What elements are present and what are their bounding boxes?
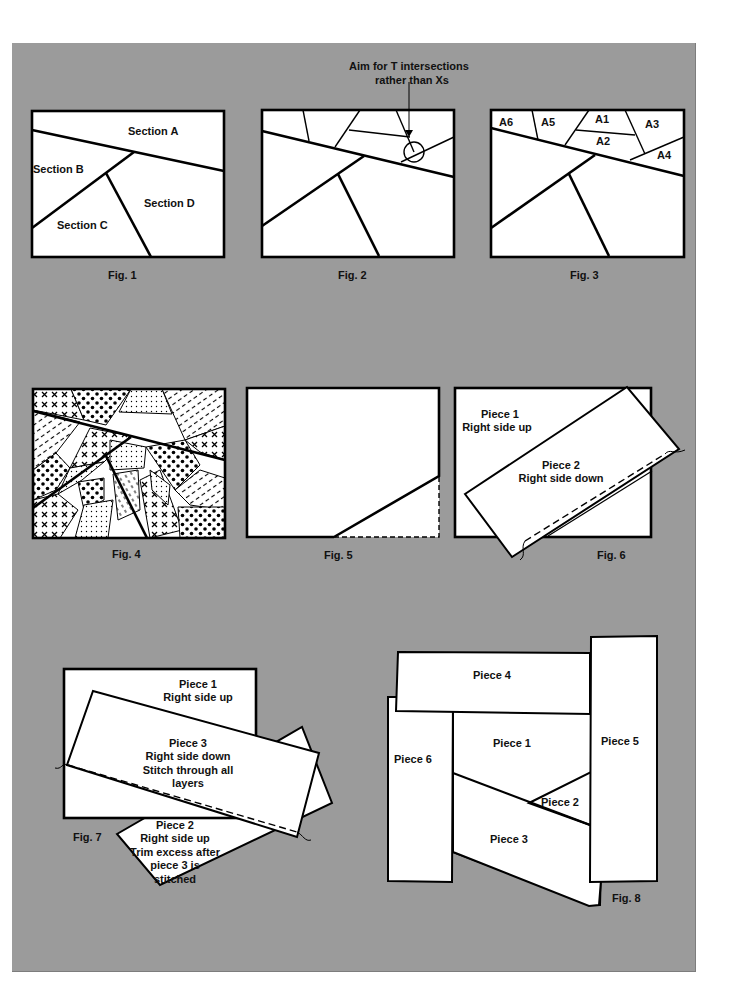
- fig7-thread-end: [297, 832, 311, 840]
- fig2-callout-line2: rather than Xs: [375, 74, 449, 86]
- figure-6: Piece 1 Right side up Piece 2 Right side…: [455, 387, 685, 561]
- fig8-label-piece2: Piece 2: [541, 796, 579, 808]
- fig1-label-section-c: Section C: [57, 219, 108, 231]
- figures-canvas: Section A Section B Section C Section D …: [0, 0, 731, 988]
- fig1-label-section-b: Section B: [33, 163, 84, 175]
- figure-5: Fig. 5: [247, 388, 439, 561]
- fig8-piece6: [388, 697, 453, 882]
- figure-7: Piece 1 Right side up Piece 3 Right side…: [55, 669, 332, 885]
- fig7-piece3-note1: Right side down: [146, 750, 231, 762]
- fig3-label-a6: A6: [499, 116, 513, 128]
- figure-2: Aim for T intersections rather than Xs F…: [262, 60, 469, 281]
- fig3-label-a3: A3: [645, 118, 659, 130]
- figure-1: Section A Section B Section C Section D …: [32, 111, 224, 281]
- fig3-label-a4: A4: [657, 149, 672, 161]
- fig7-caption: Fig. 7: [73, 831, 102, 843]
- fig1-label-section-d: Section D: [144, 197, 195, 209]
- fig6-piece2-note: Right side down: [519, 472, 604, 484]
- fig5-caption: Fig. 5: [324, 549, 353, 561]
- fig8-label-piece1: Piece 1: [493, 737, 531, 749]
- fig8-label-piece6: Piece 6: [394, 753, 432, 765]
- fig2-caption: Fig. 2: [338, 269, 367, 281]
- fig7-piece2-note4: stitched: [154, 873, 196, 885]
- fig2-callout-line1: Aim for T intersections: [349, 60, 469, 72]
- fig3-label-a1: A1: [595, 113, 609, 125]
- figure-3: A6 A5 A1 A2 A3 A4 Fig. 3: [491, 110, 684, 281]
- fig3-label-a5: A5: [541, 116, 555, 128]
- fig7-piece3-name: Piece 3: [169, 737, 207, 749]
- figure-8: Piece 4 Piece 1 Piece 5 Piece 6 Piece 2 …: [388, 636, 657, 906]
- fig4-patch: [178, 507, 225, 538]
- fig8-caption: Fig. 8: [612, 892, 641, 904]
- fig7-piece2-name: Piece 2: [156, 819, 194, 831]
- fig7-piece1-note: Right side up: [163, 691, 233, 703]
- fig8-piece4: [396, 652, 590, 714]
- fig7-piece2-note3: piece 3 is: [150, 859, 200, 871]
- fig7-piece1-name: Piece 1: [179, 678, 217, 690]
- fig6-piece1-note: Right side up: [462, 421, 532, 433]
- fig7-piece3-note3: layers: [172, 777, 204, 789]
- fig7-piece3-note2: Stitch through all: [143, 764, 233, 776]
- fig3-label-a2: A2: [596, 135, 610, 147]
- fig7-piece2-note2: Trim excess after: [130, 846, 221, 858]
- fig6-piece2-name: Piece 2: [542, 459, 580, 471]
- fig6-piece1-name: Piece 1: [481, 408, 519, 420]
- fig1-caption: Fig. 1: [108, 269, 137, 281]
- fig8-label-piece4: Piece 4: [473, 669, 512, 681]
- fig3-block-outline: [491, 110, 684, 257]
- fig8-label-piece3: Piece 3: [490, 833, 528, 845]
- fig7-piece2-note1: Right side up: [140, 832, 210, 844]
- fig4-caption: Fig. 4: [112, 548, 142, 560]
- fig6-caption: Fig. 6: [597, 549, 626, 561]
- figure-4: Fig. 4: [33, 389, 225, 560]
- fig2-block-outline: [262, 110, 454, 257]
- fig8-piece5: [590, 636, 657, 882]
- fig3-caption: Fig. 3: [570, 269, 599, 281]
- fig1-label-section-a: Section A: [128, 125, 178, 137]
- fig8-label-piece5: Piece 5: [601, 735, 639, 747]
